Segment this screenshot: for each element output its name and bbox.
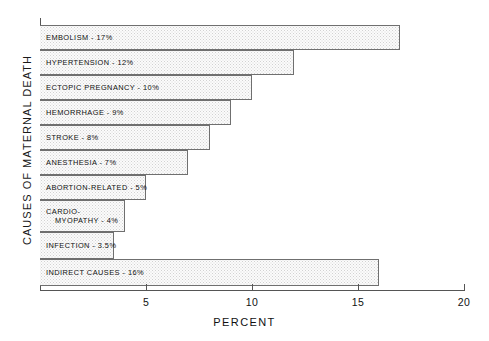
x-axis-tick-label: 10 bbox=[232, 296, 272, 308]
plot-area: EMBOLISM - 17%HYPERTENSION - 12%ECTOPIC … bbox=[40, 18, 465, 290]
x-axis-tick bbox=[358, 284, 359, 291]
bar bbox=[40, 259, 379, 286]
y-axis-title: CAUSES OF MATERNAL DEATH bbox=[18, 0, 36, 300]
bar bbox=[40, 232, 114, 259]
bar bbox=[40, 125, 210, 150]
bar bbox=[40, 100, 231, 125]
bar-row: ANESTHESIA - 7% bbox=[40, 150, 465, 175]
bar-row: HYPERTENSION - 12% bbox=[40, 50, 465, 75]
bar-row: ABORTION-RELATED - 5% bbox=[40, 175, 465, 200]
x-axis-tick bbox=[464, 284, 465, 291]
bar bbox=[40, 150, 188, 175]
x-axis-title: PERCENT bbox=[0, 316, 489, 328]
bar-series: EMBOLISM - 17%HYPERTENSION - 12%ECTOPIC … bbox=[40, 25, 465, 286]
x-axis-tick-label: 15 bbox=[338, 296, 378, 308]
bar-row: INDIRECT CAUSES - 16% bbox=[40, 259, 465, 286]
bar bbox=[40, 175, 146, 200]
x-axis-tick-label: 20 bbox=[444, 296, 484, 308]
bar bbox=[40, 25, 400, 50]
x-axis-tick bbox=[252, 284, 253, 291]
bar-row: CARDIO-MYOPATHY - 4% bbox=[40, 200, 465, 232]
x-axis-tick bbox=[146, 284, 147, 291]
bar-row: HEMORRHAGE - 9% bbox=[40, 100, 465, 125]
bar-row: EMBOLISM - 17% bbox=[40, 25, 465, 50]
bar-row: STROKE - 8% bbox=[40, 125, 465, 150]
bar-row: ECTOPIC PREGNANCY - 10% bbox=[40, 75, 465, 100]
bar bbox=[40, 75, 252, 100]
bar bbox=[40, 50, 294, 75]
bar-row: INFECTION - 3.5% bbox=[40, 232, 465, 259]
y-axis-title-label: CAUSES OF MATERNAL DEATH bbox=[21, 55, 33, 245]
bar bbox=[40, 200, 125, 232]
x-axis-tick-label: 5 bbox=[126, 296, 166, 308]
bar-chart-figure: CAUSES OF MATERNAL DEATH EMBOLISM - 17%H… bbox=[0, 0, 489, 341]
